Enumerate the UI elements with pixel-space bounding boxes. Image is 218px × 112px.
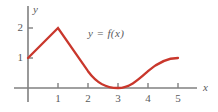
- x-tick-label-4: 4: [141, 93, 155, 104]
- y-tick-label-2: 2: [11, 22, 23, 33]
- y-tick-label-1: 1: [11, 52, 23, 63]
- function-graph-figure: 1 2 1 2 3 4 5 y x y = f(x): [0, 0, 218, 112]
- curve-label: y = f(x): [88, 28, 124, 39]
- plot-area: [0, 0, 218, 112]
- x-tick-label-1: 1: [51, 93, 65, 104]
- x-tick-label-2: 2: [81, 93, 95, 104]
- x-axis-label: x: [203, 82, 208, 93]
- y-axis-label: y: [33, 4, 38, 15]
- x-tick-label-5: 5: [171, 93, 185, 104]
- x-tick-label-3: 3: [111, 93, 125, 104]
